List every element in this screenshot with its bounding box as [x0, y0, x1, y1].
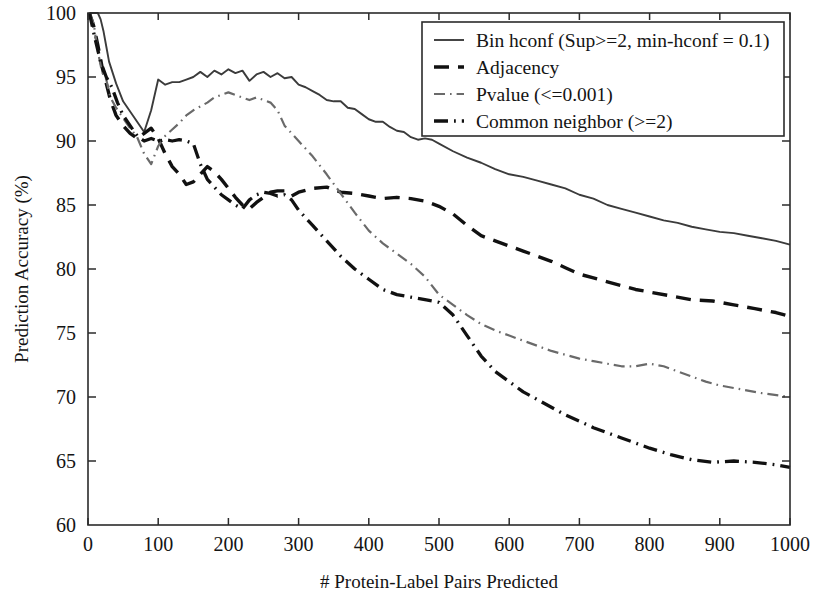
- x-tick-label: 100: [143, 533, 173, 555]
- y-tick-label: 75: [56, 322, 76, 344]
- x-tick-label: 700: [564, 533, 594, 555]
- x-axis-title: # Protein-Label Pairs Predicted: [320, 571, 558, 592]
- legend: Bin hconf (Sup>=2, min-hconf = 0.1)Adjac…: [422, 22, 784, 136]
- x-tick-label: 300: [284, 533, 314, 555]
- prediction-accuracy-line-chart: 01002003004005006007008009001000 6065707…: [0, 0, 813, 613]
- legend-label: Common neighbor (>=2): [476, 111, 672, 133]
- y-tick-label: 90: [56, 130, 76, 152]
- x-tick-label: 600: [494, 533, 524, 555]
- x-tick-label: 1000: [770, 533, 810, 555]
- y-tick-label: 70: [56, 386, 76, 408]
- y-tick-label: 65: [56, 450, 76, 472]
- y-tick-label: 60: [56, 514, 76, 536]
- y-tick-label: 80: [56, 258, 76, 280]
- y-tick-label: 100: [46, 2, 76, 24]
- legend-label: Bin hconf (Sup>=2, min-hconf = 0.1): [476, 30, 770, 52]
- legend-label: Adjacency: [476, 57, 560, 78]
- x-tick-label: 900: [705, 533, 735, 555]
- y-tick-label: 95: [56, 66, 76, 88]
- y-tick-label: 85: [56, 194, 76, 216]
- x-tick-label: 0: [83, 533, 93, 555]
- x-tick-label: 200: [213, 533, 243, 555]
- x-tick-label: 800: [635, 533, 665, 555]
- chart-figure: 01002003004005006007008009001000 6065707…: [0, 0, 813, 613]
- y-axis-title: Prediction Accuracy (%): [11, 175, 33, 363]
- x-tick-label: 400: [354, 533, 384, 555]
- legend-label: Pvalue (<=0.001): [476, 84, 613, 106]
- x-tick-label: 500: [424, 533, 454, 555]
